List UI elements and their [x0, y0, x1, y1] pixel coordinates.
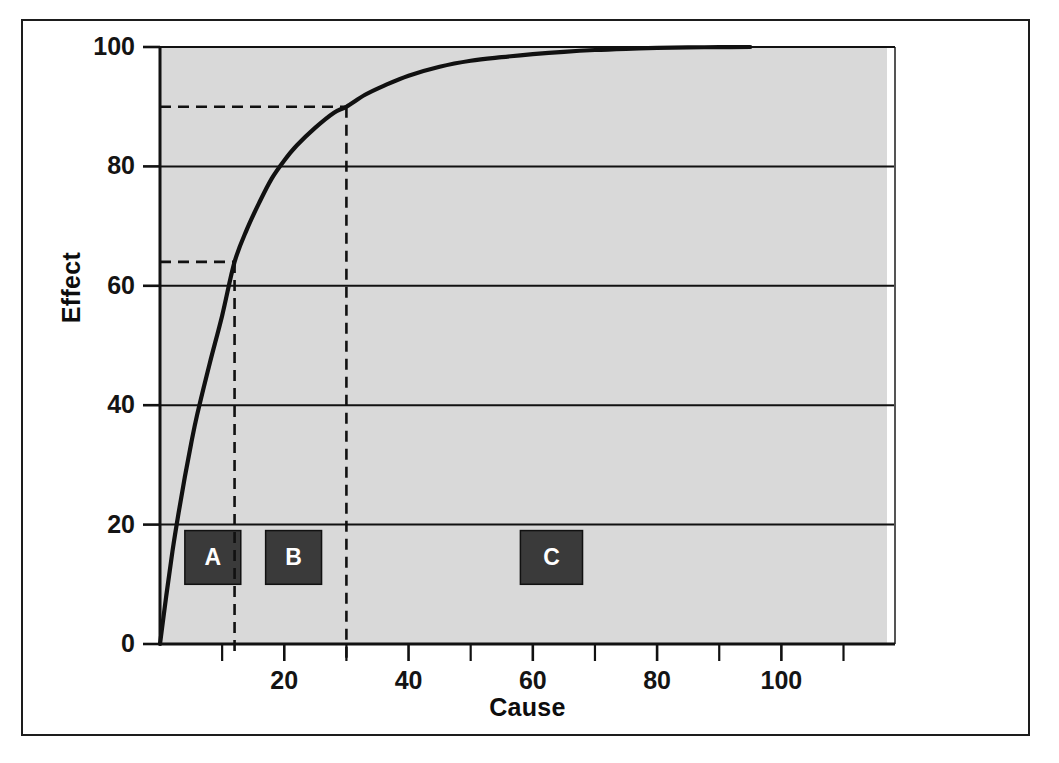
x-axis-title: Cause [23, 693, 1032, 722]
y-tick-label-0: 0 [45, 631, 135, 656]
y-tick-label-40: 40 [45, 392, 135, 417]
zone-label-b: B [266, 531, 322, 585]
x-tick-label-100: 100 [736, 668, 826, 693]
x-tick-label-40: 40 [364, 668, 454, 693]
pareto-chart [23, 21, 1032, 738]
y-tick-label-100: 100 [45, 34, 135, 59]
x-tick-label-80: 80 [612, 668, 702, 693]
y-axis-title: Effect [57, 228, 86, 348]
y-tick-label-20: 20 [45, 512, 135, 537]
x-tick-label-20: 20 [239, 668, 329, 693]
figure-caption-fragment [0, 0, 1059, 12]
x-tick-label-60: 60 [488, 668, 578, 693]
zone-label-c: C [520, 531, 582, 585]
figure-frame: 02040608010020406080100 ABC Effect Cause [21, 19, 1030, 736]
y-tick-label-80: 80 [45, 153, 135, 178]
zone-label-a: A [185, 531, 241, 585]
